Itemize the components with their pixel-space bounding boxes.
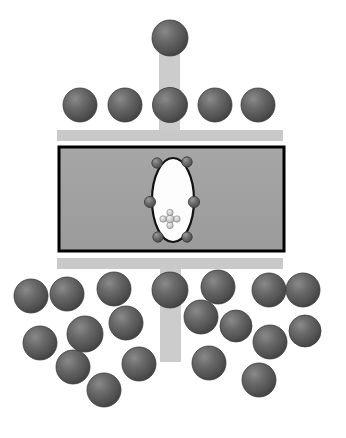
apex-sphere-group bbox=[152, 20, 188, 56]
bottom-sphere-2 bbox=[50, 277, 84, 311]
vesicle-node-top-left bbox=[152, 158, 162, 168]
cluster-center bbox=[166, 215, 174, 223]
apex-sphere bbox=[152, 20, 188, 56]
bottom-sphere-18 bbox=[87, 373, 121, 407]
vesicle-node-bottom-right bbox=[182, 232, 192, 242]
bottom-sphere-10 bbox=[23, 326, 57, 360]
central-vesicle bbox=[152, 158, 194, 242]
bottom-sphere-6 bbox=[252, 273, 286, 307]
vesicle-group bbox=[152, 158, 194, 242]
cluster-left bbox=[160, 216, 166, 222]
row-sphere-5 bbox=[241, 88, 275, 122]
cluster-bottom bbox=[167, 222, 173, 228]
bottom-sphere-3 bbox=[97, 272, 131, 306]
cluster-right bbox=[174, 216, 180, 222]
upper-horizontal-bar bbox=[57, 130, 283, 141]
bottom-sphere-1 bbox=[14, 279, 48, 313]
bottom-sphere-13 bbox=[289, 315, 321, 347]
bottom-sphere-15 bbox=[56, 350, 90, 384]
bottom-sphere-16 bbox=[122, 347, 156, 381]
vesicle-node-bottom-left bbox=[153, 232, 163, 242]
schematic-diagram bbox=[0, 0, 346, 438]
bottom-sphere-5 bbox=[201, 270, 235, 304]
bottom-sphere-19 bbox=[242, 363, 276, 397]
bottom-sphere-14 bbox=[253, 325, 287, 359]
lower-horizontal-bar bbox=[57, 258, 283, 269]
bottom-sphere-12 bbox=[220, 310, 252, 342]
row-sphere-1 bbox=[63, 88, 97, 122]
bottom-sphere-11 bbox=[184, 300, 218, 334]
bottom-sphere-7 bbox=[286, 273, 320, 307]
vesicle-node-top-right bbox=[182, 157, 192, 167]
bottom-sphere-4 bbox=[152, 272, 188, 308]
vesicle-node-mid-right bbox=[188, 196, 199, 207]
bottom-sphere-17 bbox=[192, 346, 226, 380]
row-sphere-4 bbox=[198, 88, 232, 122]
bottom-sphere-8 bbox=[109, 306, 143, 340]
bottom-sphere-9 bbox=[67, 316, 103, 352]
figure-root bbox=[0, 0, 346, 438]
vesicle-node-mid-left bbox=[144, 196, 155, 207]
cluster-top bbox=[167, 209, 173, 215]
row-sphere-3 bbox=[153, 88, 188, 123]
row-sphere-2 bbox=[108, 88, 142, 122]
